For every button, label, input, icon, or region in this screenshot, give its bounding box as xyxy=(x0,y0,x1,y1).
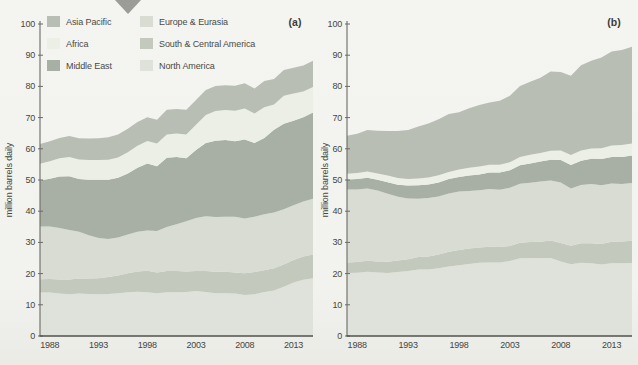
x-tick-label: 1988 xyxy=(40,340,59,350)
legend-swatch-icon xyxy=(140,60,153,71)
y-tick-label: 70 xyxy=(332,113,342,123)
y-tick-label: 60 xyxy=(25,144,35,154)
figure-page: 0102030405060708090100198819931998200320… xyxy=(0,0,638,365)
y-tick-label: 80 xyxy=(332,81,342,91)
x-tick-label: 2013 xyxy=(602,340,621,350)
y-tick-label: 10 xyxy=(25,300,35,310)
y-tick-label: 0 xyxy=(337,331,342,341)
legend-label: North America xyxy=(159,61,215,71)
y-tick-label: 50 xyxy=(25,175,35,185)
x-tick-label: 1998 xyxy=(138,340,157,350)
legend-item: Middle East xyxy=(47,60,112,71)
legend-swatch-icon xyxy=(140,38,153,49)
x-tick-label: 2008 xyxy=(551,340,570,350)
legend-item: North America xyxy=(140,60,215,71)
y-tick-label: 40 xyxy=(25,206,35,216)
x-tick-label: 2003 xyxy=(500,340,519,350)
x-tick-label: 2008 xyxy=(235,340,254,350)
panel-label: (b) xyxy=(607,16,620,28)
y-tick-label: 30 xyxy=(332,237,342,247)
legend-item: Asia Pacific xyxy=(47,16,111,27)
legend-swatch-icon xyxy=(47,60,60,71)
legend-item: Europe & Eurasia xyxy=(140,16,228,27)
legend-swatch-icon xyxy=(47,16,60,27)
x-tick-label: 1993 xyxy=(398,340,417,350)
oil-consumption-chart-b: 0102030405060708090100198819931998200320… xyxy=(318,0,638,365)
x-tick-label: 1988 xyxy=(348,340,367,350)
legend-label: Africa xyxy=(66,39,88,49)
legend-item: Africa xyxy=(47,38,88,49)
y-tick-label: 60 xyxy=(332,144,342,154)
legend-swatch-icon xyxy=(140,16,153,27)
y-tick-label: 10 xyxy=(332,300,342,310)
x-tick-label: 2003 xyxy=(186,340,205,350)
legend-label: Middle East xyxy=(66,61,112,71)
x-tick-label: 1993 xyxy=(89,340,108,350)
y-tick-label: 100 xyxy=(328,19,343,29)
legend: Asia PacificAfricaMiddle EastEurope & Eu… xyxy=(0,0,318,84)
legend-label: South & Central America xyxy=(159,39,255,49)
y-tick-label: 90 xyxy=(332,50,342,60)
y-tick-label: 70 xyxy=(25,113,35,123)
y-tick-label: 0 xyxy=(30,331,35,341)
y-tick-label: 20 xyxy=(25,269,35,279)
y-tick-label: 20 xyxy=(332,269,342,279)
y-tick-label: 50 xyxy=(332,175,342,185)
x-tick-label: 2013 xyxy=(284,340,303,350)
y-tick-label: 40 xyxy=(332,206,342,216)
y-tick-label: 30 xyxy=(25,237,35,247)
legend-label: Asia Pacific xyxy=(66,17,111,27)
legend-swatch-icon xyxy=(47,38,60,49)
y-axis-title: million barrels daily xyxy=(320,142,330,217)
legend-label: Europe & Eurasia xyxy=(159,17,228,27)
x-tick-label: 1998 xyxy=(449,340,468,350)
y-axis-title: million barrels daily xyxy=(4,142,14,217)
legend-item: South & Central America xyxy=(140,38,255,49)
